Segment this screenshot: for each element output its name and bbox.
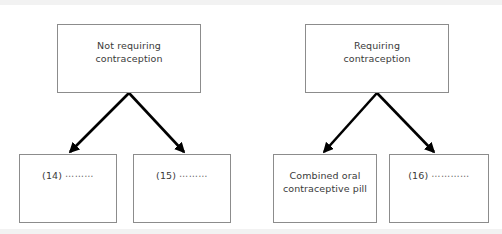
- node-blank-15[interactable]: (15) ⋯⋯⋯: [133, 154, 231, 223]
- node-label: (14) ⋯⋯⋯: [38, 155, 98, 182]
- node-blank-14[interactable]: (14) ⋯⋯⋯: [19, 154, 117, 223]
- node-label: Not requiring contraception: [91, 25, 166, 65]
- node-label: Combined oral contraceptive pill: [279, 155, 371, 195]
- edge-not-requiring-to-14: [70, 93, 129, 152]
- diagram-canvas: Not requiring contraception Requiring co…: [0, 0, 502, 234]
- node-combined-oral-contraceptive-pill[interactable]: Combined oral contraceptive pill: [273, 154, 377, 223]
- node-requiring-contraception[interactable]: Requiring contraception: [305, 24, 449, 93]
- node-blank-16[interactable]: (16) ⋯⋯⋯⋯: [389, 154, 489, 223]
- top-scan-band: [0, 0, 502, 5]
- bottom-scan-band: [0, 229, 502, 234]
- edge-not-requiring-to-15: [129, 93, 184, 152]
- edge-requiring-to-16: [377, 93, 434, 152]
- node-not-requiring-contraception[interactable]: Not requiring contraception: [57, 24, 201, 93]
- node-label: Requiring contraception: [339, 25, 414, 65]
- edge-requiring-to-cocp: [324, 93, 377, 152]
- node-label: (15) ⋯⋯⋯: [152, 155, 212, 182]
- node-label: (16) ⋯⋯⋯⋯: [404, 155, 473, 182]
